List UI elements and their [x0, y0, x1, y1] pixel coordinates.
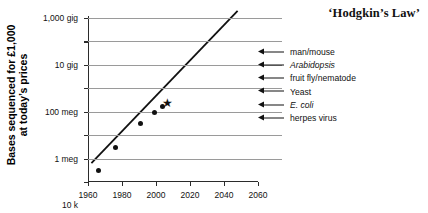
x-axis-tick-label: 2000	[147, 191, 166, 200]
gridline	[88, 159, 282, 160]
y-axis-tick-label: 1,000 gig	[43, 14, 78, 23]
gridline	[88, 112, 282, 113]
arrow-left-icon	[258, 101, 284, 108]
y-axis-tick-label: 10 gig	[55, 61, 78, 70]
annotation-row: Arabidopsis	[258, 60, 335, 71]
y-axis-tick: 10 k	[84, 112, 88, 113]
annotation-row: fruit fly/nematode	[258, 73, 356, 84]
annotation-row: man/mouse	[258, 46, 335, 57]
annotation-label: herpes virus	[290, 114, 337, 123]
x-axis-tick-label: 1980	[113, 191, 132, 200]
y-axis-title: Bases sequenced for £1,000 at today’s pr…	[0, 0, 34, 190]
y-axis-tick: 10 gig	[84, 41, 88, 42]
x-axis-tick	[156, 182, 157, 186]
gridline	[88, 88, 282, 89]
x-axis-tick	[224, 182, 225, 186]
annotation-row: E. coli	[258, 99, 313, 110]
y-axis-title-line-1: Bases sequenced for £1,000	[5, 25, 17, 166]
annotation-row: Yeast	[258, 86, 311, 97]
y-axis-tick-label: 10 k	[62, 201, 78, 210]
gridline	[88, 135, 282, 136]
y-axis-tick: 100	[84, 135, 88, 136]
y-axis-tick-label: 100 meg	[45, 107, 78, 116]
y-axis-tick-label: 1 meg	[54, 154, 78, 163]
x-axis-tick	[88, 182, 89, 186]
x-axis-tick	[190, 182, 191, 186]
annotation-label: man/mouse	[290, 47, 335, 56]
annotation-label: Arabidopsis	[290, 61, 335, 70]
gridline	[88, 41, 282, 42]
gridline	[88, 65, 282, 66]
chart-figure: ‘Hodgkin’s Law’ Bases sequenced for £1,0…	[0, 0, 428, 213]
annotation-label: Yeast	[290, 87, 311, 96]
data-point	[96, 168, 101, 173]
data-point	[152, 110, 157, 115]
y-axis-tick: 100 meg	[84, 65, 88, 66]
annotation-label: fruit fly/nematode	[290, 74, 356, 83]
arrow-left-icon	[258, 114, 284, 121]
arrow-left-icon	[258, 88, 284, 95]
arrow-left-icon	[258, 48, 284, 55]
arrow-left-icon	[258, 62, 284, 69]
annotation-label: E. coli	[290, 100, 313, 109]
y-axis-tick: 1	[84, 159, 88, 160]
x-axis-tick-label: 2040	[215, 191, 234, 200]
x-axis-tick	[258, 182, 259, 186]
x-axis-tick-label: 2060	[249, 191, 268, 200]
x-axis-tick-label: 1960	[79, 191, 98, 200]
y-axis-tick: 1 meg	[84, 88, 88, 89]
x-axis-tick	[122, 182, 123, 186]
x-axis-tick-label: 2020	[181, 191, 200, 200]
annotation-row: herpes virus	[258, 112, 337, 123]
data-point-star: ★	[162, 97, 173, 109]
plot-area: 0.01110010 k1 meg100 meg10 gig1,000 gig1…	[88, 18, 258, 182]
arrow-left-icon	[258, 75, 284, 82]
gridline	[88, 18, 282, 19]
organism-annotations: man/mouseArabidopsisfruit fly/nematodeYe…	[258, 18, 428, 182]
y-axis-tick: 1,000 gig	[84, 18, 88, 19]
y-axis-title-line-2: at today’s prices	[17, 54, 29, 136]
